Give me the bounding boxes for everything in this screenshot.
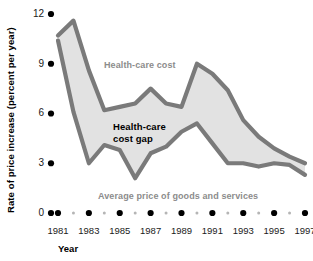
x-tick-dot-1997 [302, 210, 308, 216]
x-tick-label-1985: 1985 [109, 225, 130, 236]
y-tick-dots [48, 11, 54, 216]
x-tick-label-1987: 1987 [140, 225, 161, 236]
x-minor-tick-dot-1990 [195, 212, 198, 215]
band-label-line-1: Health-care [113, 121, 166, 132]
x-tick-label-1989: 1989 [171, 225, 192, 236]
x-minor-tick-dot-1994 [257, 212, 260, 215]
y-axis-title: Rate of price increase (percent per year… [5, 27, 16, 213]
x-tick-dot-1985 [117, 210, 123, 216]
y-tick-dot-9 [48, 61, 54, 67]
y-tick-label-12: 12 [33, 8, 45, 19]
x-minor-tick-dot-1988 [165, 212, 168, 215]
y-tick-dot-3 [48, 160, 54, 166]
y-tick-label-6: 6 [38, 107, 44, 118]
x-tick-dot-1987 [148, 210, 154, 216]
x-tick-dot-1993 [240, 210, 246, 216]
x-minor-tick-dot-1986 [134, 212, 137, 215]
x-minor-tick-dot-1992 [226, 212, 229, 215]
y-tick-label-0: 0 [38, 207, 44, 218]
x-minor-tick-dot-1996 [288, 212, 291, 215]
x-minor-tick-dot-1984 [103, 212, 106, 215]
y-tick-label-3: 3 [38, 157, 44, 168]
x-tick-dots [55, 210, 308, 216]
x-tick-dot-1981 [55, 210, 61, 216]
x-tick-label-1991: 1991 [202, 225, 223, 236]
y-tick-dot-6 [48, 110, 54, 116]
x-tick-dot-1991 [209, 210, 215, 216]
band-label-line-2: cost gap [113, 133, 153, 144]
lower-series-label: Average price of goods and services [98, 191, 258, 201]
x-tick-dot-1995 [271, 210, 277, 216]
x-axis-title: Year [58, 243, 78, 254]
x-tick-label-1993: 1993 [233, 225, 254, 236]
chart-container: Rate of price increase (percent per year… [0, 0, 313, 261]
x-tick-label-1995: 1995 [264, 225, 285, 236]
y-tick-dot-12 [48, 11, 54, 17]
x-tick-labels: 198119831985198719891991199319951997 [47, 225, 313, 236]
y-tick-label-9: 9 [38, 58, 44, 69]
x-tick-label-1983: 1983 [78, 225, 99, 236]
x-tick-dot-1989 [178, 210, 184, 216]
upper-series-label: Health-care cost [104, 60, 176, 70]
y-tick-dot-0 [48, 210, 54, 216]
y-tick-labels: 12 9 6 3 0 [33, 8, 45, 218]
x-tick-label-1981: 1981 [47, 225, 68, 236]
health-care-cost-area-chart: Rate of price increase (percent per year… [0, 0, 313, 261]
x-minor-tick-dot-1982 [72, 212, 75, 215]
x-tick-dot-1983 [86, 210, 92, 216]
x-tick-label-1997: 1997 [294, 225, 313, 236]
